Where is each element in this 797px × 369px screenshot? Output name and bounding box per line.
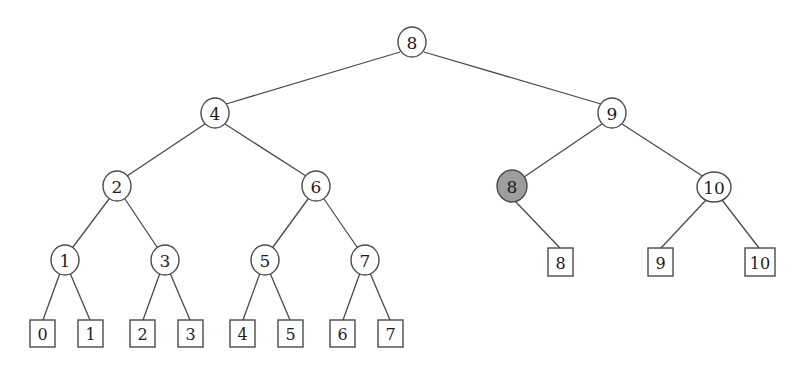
tree-edge [73,199,109,247]
internal-node[interactable]: 9 [598,98,626,128]
leaf-node-label: 6 [337,325,347,344]
leaf-node-label: 7 [385,325,395,344]
internal-node[interactable]: 2 [103,171,131,201]
leaf-node-label: 2 [137,325,147,344]
internal-node-label: 8 [507,177,518,197]
internal-node-label: 8 [407,33,418,53]
tree-edge [722,200,759,248]
internal-node[interactable]: 3 [151,245,179,275]
leaf-node[interactable]: 4 [230,320,255,347]
tree-edge [70,273,90,320]
internal-node-label: 3 [160,251,171,271]
internal-node-label: 7 [360,251,371,271]
leaf-node-label: 3 [185,325,195,344]
internal-node[interactable]: 7 [351,245,379,275]
leaf-node[interactable]: 9 [648,248,673,276]
leaf-nodes-group: 012345678910 [30,248,775,347]
tree-edge [661,200,706,248]
leaf-node-label: 9 [655,254,665,273]
leaf-node[interactable]: 3 [178,320,203,347]
tree-edge [127,124,205,176]
internal-node-label: 4 [210,104,221,124]
tree-edge [270,273,290,320]
internal-node-label: 10 [703,178,725,198]
leaf-node[interactable]: 7 [378,320,403,347]
tree-edge [515,201,560,248]
leaf-node-label: 10 [750,254,770,273]
tree-edge [424,52,601,104]
tree-edge [143,273,160,320]
leaf-node[interactable]: 8 [548,248,573,276]
internal-nodes-group: 849268101357 [51,27,731,275]
tree-edge [243,273,260,320]
leaf-node[interactable]: 2 [130,320,155,347]
tree-edge [524,124,602,177]
internal-node-label: 1 [60,251,71,271]
tree-diagram-canvas: 012345678910 849268101357 [0,0,797,369]
leaf-node-label: 1 [85,325,95,344]
tree-edge [225,124,306,176]
tree-edge [125,199,157,247]
internal-node-label: 5 [260,251,271,271]
leaf-node[interactable]: 10 [745,248,775,276]
leaf-node[interactable]: 5 [278,320,303,347]
tree-edge [170,273,190,320]
leaf-node-label: 8 [555,254,565,273]
internal-node-label: 6 [311,177,322,197]
internal-node[interactable]: 4 [201,98,229,128]
internal-node[interactable]: 10 [697,172,731,202]
internal-node[interactable]: 8 [398,27,426,57]
leaf-node[interactable]: 6 [330,320,355,347]
leaf-node-label: 4 [237,325,247,344]
internal-node[interactable]: 5 [251,245,279,275]
leaf-node[interactable]: 0 [30,320,55,347]
tree-edge [273,199,308,247]
binary-tree-svg: 012345678910 849268101357 [0,0,797,369]
tree-edge [622,124,704,177]
internal-node[interactable]: 6 [302,171,330,201]
leaf-node-label: 5 [285,325,295,344]
tree-edge [343,273,360,320]
tree-edge [43,273,60,320]
internal-node[interactable]: 1 [51,245,79,275]
internal-node-highlighted[interactable]: 8 [497,170,527,202]
edges-group [43,52,759,320]
tree-edge [370,273,390,320]
tree-edge [226,52,400,104]
tree-edge [324,199,357,247]
leaf-node-label: 0 [37,325,47,344]
internal-node-label: 9 [607,104,618,124]
leaf-node[interactable]: 1 [78,320,103,347]
internal-node-label: 2 [112,177,123,197]
